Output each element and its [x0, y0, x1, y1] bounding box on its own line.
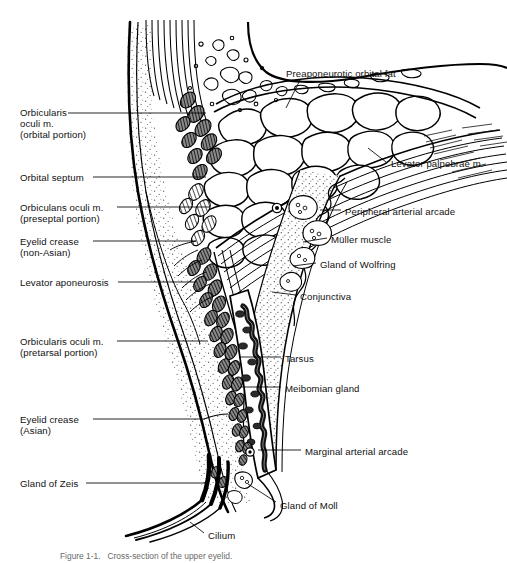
- label-orbicularis-pretarsal: Orbicularis oculi m. (pretarsal portion): [20, 336, 104, 358]
- label-tarsus: Tarsus: [285, 353, 314, 364]
- label-gland-of-wolfring: Gland of Wolfring: [320, 259, 396, 270]
- label-gland-of-zeis: Gland of Zeis: [20, 478, 78, 489]
- marginal-arterial-arcade-vessel: [246, 448, 254, 456]
- label-preaponeurotic-orbital-fat: Preaponeurotic orbital fat: [286, 68, 396, 79]
- label-cilium: Cilium: [208, 530, 235, 541]
- label-orbicularis-orbital: Orbicularis oculi m. (orbital portion): [20, 107, 86, 141]
- figure-container: Orbicularis oculi m. (orbital portion)Or…: [0, 0, 507, 563]
- label-gland-of-moll: Gland of Moll: [280, 500, 338, 511]
- figure-caption: Figure 1-1. Cross-section of the upper e…: [60, 551, 232, 561]
- label-eyelid-crease-asian: Eyelid crease (Asian): [20, 414, 79, 436]
- label-eyelid-crease-nonasian: Eyelid crease (non-Asian): [20, 236, 79, 258]
- label-levator-aponeurosis: Levator aponeurosis: [20, 277, 109, 288]
- label-conjunctiva: Conjunctiva: [300, 291, 351, 302]
- label-orbital-septum: Orbital septum: [20, 172, 84, 183]
- label-marginal-arterial-arcade: Marginal arterial arcade: [305, 446, 408, 457]
- label-peripheral-arterial-arcade: Peripheral arterial arcade: [345, 206, 455, 217]
- label-meibomian-gland: Meibomian gland: [285, 383, 360, 394]
- label-muller-muscle: Müller muscle: [331, 234, 391, 245]
- label-orbicularis-preseptal: Orbiculans oculi m. (preseptal portion): [20, 202, 103, 224]
- label-levator-palpebrae: Levator palpebrae m.: [391, 158, 484, 169]
